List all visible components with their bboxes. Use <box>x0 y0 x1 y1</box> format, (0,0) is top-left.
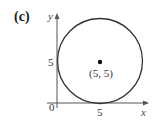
x-axis-arrow-icon <box>143 101 149 106</box>
center-point-label: (5, 5) <box>89 67 113 80</box>
panel-label: (c) <box>14 9 30 25</box>
circle-diagram: (c) y x (5, 5) 5 5 0 <box>0 0 157 122</box>
x-axis-label: x <box>140 106 146 118</box>
y-axis-label: y <box>47 10 53 22</box>
center-point <box>98 60 102 64</box>
y-tick-label-5: 5 <box>48 56 54 68</box>
y-axis-arrow-icon <box>55 13 60 19</box>
x-tick-label-5: 5 <box>97 106 103 118</box>
origin-label: 0 <box>49 101 55 113</box>
